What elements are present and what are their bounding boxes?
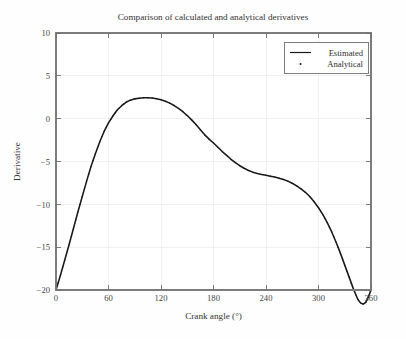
y-axis-label: Derivative [12,142,22,181]
y-tick-label: −15 [37,242,50,252]
x-tick-label: 300 [312,293,325,303]
legend-label-analytical: Analytical [327,59,363,69]
y-tick-label: −20 [37,285,50,295]
x-tick-label: 240 [260,293,273,303]
chart-title: Comparison of calculated and analytical … [118,12,309,22]
x-tick-label: 60 [104,293,113,303]
x-tick-label: 360 [365,293,378,303]
y-tick-label: −5 [41,157,50,167]
x-axis-label: Crank angle (°) [185,311,242,321]
x-tick-label: 0 [54,293,58,303]
y-tick-label: −10 [37,200,50,210]
x-tick-label: 120 [155,293,168,303]
y-tick-label: 10 [41,28,50,38]
legend: Estimated Analytical [284,42,368,73]
x-tick-label: 180 [207,293,220,303]
derivative-comparison-chart: Comparison of calculated and analytical … [0,0,406,339]
legend-label-estimated: Estimated [329,48,364,58]
y-tick-label: 0 [46,114,50,124]
y-tick-label: 5 [46,71,50,81]
figure-container: Comparison of calculated and analytical … [0,0,406,339]
legend-marker-dot [300,63,302,65]
